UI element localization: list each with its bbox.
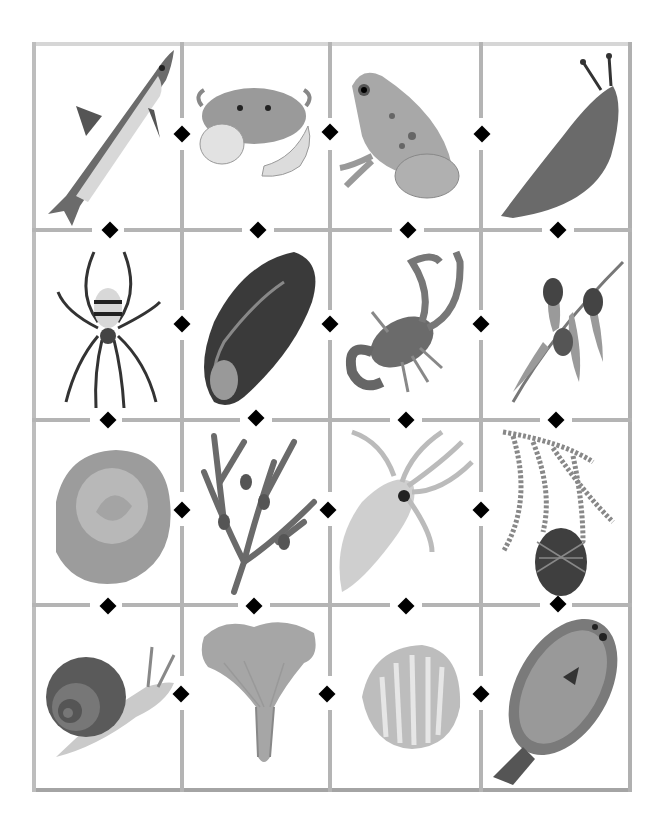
grid-border-bottom [32, 788, 632, 792]
mushroom-icon [184, 607, 328, 788]
pine-cone-branch-icon [483, 422, 628, 603]
slug-icon [483, 46, 628, 228]
cell-cabbage[interactable] [36, 422, 180, 603]
cell-crab[interactable] [184, 46, 328, 228]
cell-olive-branch[interactable] [483, 232, 628, 418]
cell-mushroom[interactable] [184, 607, 328, 788]
frog-icon [332, 46, 479, 228]
cell-pine-cone-branch[interactable] [483, 422, 628, 603]
clam-shell-icon [332, 607, 479, 788]
cell-spider[interactable] [36, 232, 180, 418]
cell-mussel[interactable] [184, 232, 328, 418]
cell-seaweed[interactable] [184, 422, 328, 603]
fish-icon [36, 46, 180, 228]
cell-squid[interactable] [332, 422, 479, 603]
olive-branch-icon [483, 232, 628, 418]
cell-scorpion[interactable] [332, 232, 479, 418]
cell-frog[interactable] [332, 46, 479, 228]
snail-icon [36, 607, 180, 788]
cabbage-icon [36, 422, 180, 603]
flatfish-icon [483, 607, 628, 788]
cell-flatfish[interactable] [483, 607, 628, 788]
cell-clam-shell[interactable] [332, 607, 479, 788]
seaweed-icon [184, 422, 328, 603]
mussel-icon [184, 232, 328, 418]
spider-icon [36, 232, 180, 418]
picture-grid-board [32, 42, 632, 792]
squid-icon [332, 422, 479, 603]
cell-slug[interactable] [483, 46, 628, 228]
scorpion-icon [332, 232, 479, 418]
cell-fish[interactable] [36, 46, 180, 228]
grid-border-right [628, 42, 632, 792]
cell-snail[interactable] [36, 607, 180, 788]
crab-icon [184, 46, 328, 228]
